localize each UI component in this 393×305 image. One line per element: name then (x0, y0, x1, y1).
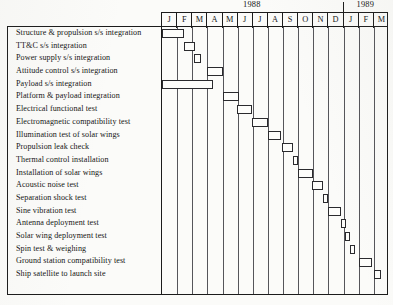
task-label: Propulsion leak check (8, 141, 161, 154)
task-label: Electrical functional test (8, 103, 161, 116)
gridline-2 (192, 27, 193, 294)
task-label: Ground station compatibility test (8, 255, 161, 268)
task-label: Antenna deployment test (8, 217, 161, 230)
gridline-9 (298, 27, 299, 294)
gantt-bar (323, 194, 328, 203)
gridline-8 (283, 27, 284, 294)
gantt-bar (312, 181, 323, 190)
gridline-12 (344, 27, 345, 294)
month-header-row: JFMAMJJASONDJFM (161, 12, 388, 27)
gantt-bar (184, 42, 195, 51)
gridline-13 (359, 27, 360, 294)
task-label: Thermal control installation (8, 154, 161, 167)
task-label: Ship satellite to launch site (8, 268, 161, 281)
gridline-5 (238, 27, 239, 294)
task-label: Structure & propulsion s/s integration (8, 27, 161, 40)
gantt-bar (268, 131, 281, 140)
gantt-bar (328, 207, 340, 216)
task-label: Separation shock test (8, 192, 161, 205)
gantt-bar (341, 219, 346, 228)
year-label-1988: 1988 (161, 0, 343, 9)
gantt-bar (162, 29, 184, 38)
gridline-10 (313, 27, 314, 294)
gridline-6 (253, 27, 254, 294)
task-label: Acoustic noise test (8, 179, 161, 192)
gantt-bar (298, 169, 312, 178)
task-label: Illumination test of solar wings (8, 129, 161, 142)
year-label-1989: 1989 (343, 0, 388, 9)
gantt-bar (162, 80, 213, 89)
gridline-11 (328, 27, 329, 294)
gantt-bar (374, 270, 382, 279)
gridline-7 (268, 27, 269, 294)
task-label: Attitude control s/s integration (8, 65, 161, 78)
gantt-bar (252, 118, 268, 127)
gantt-chart: 19881989 JFMAMJJASONDJFM Structure & pro… (0, 0, 393, 305)
gantt-bar (237, 105, 252, 114)
task-label: Electromagnetic compatibility test (8, 116, 161, 129)
gantt-bar (350, 245, 355, 254)
task-label-column: Structure & propulsion s/s integrationTT… (8, 27, 161, 294)
task-label: Power supply s/s integration (8, 52, 161, 65)
gridline-1 (177, 27, 178, 294)
gridline-14 (374, 27, 375, 294)
task-label: Sine vibration test (8, 205, 161, 218)
gantt-bar (345, 232, 350, 241)
task-label: TT&C s/s integration (8, 40, 161, 53)
gantt-bar (194, 54, 202, 63)
plot-area (161, 27, 388, 294)
gantt-bar (359, 258, 373, 267)
gantt-bar (293, 156, 298, 165)
task-label: Installation of solar wings (8, 167, 161, 180)
gantt-bar (207, 67, 223, 76)
gridline-4 (223, 27, 224, 294)
task-label: Solar wing deployment test (8, 230, 161, 243)
task-label: Platform & payload integration (8, 90, 161, 103)
task-label: Payload s/s integration (8, 78, 161, 91)
gantt-bar (282, 143, 293, 152)
gantt-bar (223, 92, 240, 101)
task-label: Spin test & weighing (8, 243, 161, 256)
